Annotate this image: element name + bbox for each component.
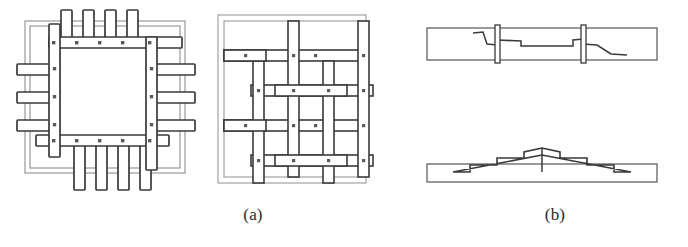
lattice-h-member-2-over [275, 85, 347, 96]
bolt-marker [244, 54, 247, 57]
bolt-marker [362, 54, 365, 57]
projecting-frame-plan: .bar { fill:#ffffff; stroke:#3a3a3a; str… [14, 8, 204, 198]
keyed-scarf-joint-svg: .beam { fill:#ffffff; stroke:#555555; st… [425, 20, 660, 68]
bolt-marker [314, 54, 317, 57]
bolt-marker [75, 139, 78, 142]
bolt-marker [257, 159, 260, 162]
stepped-scarf-joint-elevation: .lbeam { fill:#ffffff; stroke:#555555; s… [425, 142, 660, 190]
figure-container: .bar { fill:#ffffff; stroke:#3a3a3a; str… [0, 0, 688, 247]
bolt-marker [150, 123, 153, 126]
bolt-marker [52, 139, 55, 142]
bolt-marker [257, 89, 260, 92]
woven-lattice-plan-svg: .lbar { fill:#ffffff; stroke:#3a3a3a; st… [215, 12, 375, 192]
bolt-marker [53, 67, 56, 70]
bolt-marker [53, 123, 56, 126]
bolt-marker [362, 159, 365, 162]
bolt-marker [98, 139, 101, 142]
bolt-marker [292, 124, 295, 127]
bolt-marker [327, 159, 330, 162]
bolt-marker [244, 124, 247, 127]
keyed-scarf-joint-elevation: .beam { fill:#ffffff; stroke:#555555; st… [425, 20, 660, 68]
bolt-marker [150, 67, 153, 70]
bolt-marker [53, 95, 56, 98]
bolt-marker [148, 139, 151, 142]
lattice-v-member-2 [288, 21, 299, 177]
bolt-marker [292, 159, 295, 162]
caption-b: (b) [470, 205, 640, 225]
bolt-marker [292, 54, 295, 57]
lattice-v-member-4 [358, 21, 369, 177]
stepped-scarf-joint-svg: .lbeam { fill:#ffffff; stroke:#555555; s… [425, 142, 660, 190]
bolt-marker [52, 41, 55, 44]
bolt-marker [121, 139, 124, 142]
projecting-frame-plan-svg: .bar { fill:#ffffff; stroke:#3a3a3a; str… [14, 8, 204, 198]
bolt-marker [362, 124, 365, 127]
lattice-h-member-4-over [275, 155, 347, 166]
caption-a: (a) [168, 205, 338, 225]
bolt-marker [148, 41, 151, 44]
bolt-marker [121, 41, 124, 44]
bolt-marker [150, 95, 153, 98]
bolt-marker [314, 124, 317, 127]
top-rail [49, 37, 182, 48]
scarf-key-1 [495, 25, 500, 63]
bolt-marker [362, 89, 365, 92]
scarf-key-2 [581, 25, 586, 63]
right-stile [146, 37, 157, 170]
woven-lattice-plan: .lbar { fill:#ffffff; stroke:#3a3a3a; st… [215, 12, 375, 192]
frame-core-panel [60, 46, 152, 138]
bolt-marker [75, 41, 78, 44]
bolt-marker [327, 89, 330, 92]
bolt-marker [292, 89, 295, 92]
bolt-marker [98, 41, 101, 44]
